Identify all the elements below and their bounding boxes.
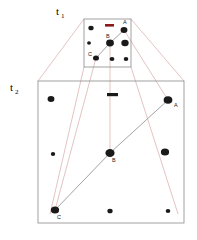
point-label-a-t2: A [174,102,178,108]
dot-t1-7 [124,57,129,61]
dot-t1-6 [110,57,115,61]
trajectory-t2-1 [55,153,110,210]
projection-line-0 [38,19,84,81]
projection-line-1 [131,19,184,81]
time-label-t2: t [10,81,13,93]
dot-t2-0 [48,96,55,102]
dot-t2-1 [164,96,173,104]
point-label-b-t1: B [106,33,110,39]
dot-t1-2 [87,41,91,44]
point-label-c-t1: C [88,51,92,57]
point-label-b-t2: B [112,157,116,163]
dot-t2-6 [107,209,112,214]
dot-t1-3 [106,40,114,47]
trajectory-t2-0 [110,100,168,153]
time-label-t1-subscript: 1 [61,12,65,20]
dash-marker-t2 [107,93,118,96]
projection-line-2 [50,67,84,214]
dot-t1-5 [93,55,99,60]
motion-correspondence-diagram: t 1 t 2 A B C A B C [0,0,197,240]
dot-t2-5 [51,206,59,213]
time-label-t1: t [56,5,59,17]
feature-dots-t1 [87,26,129,61]
dot-t1-1 [121,27,128,33]
projection-line-6 [131,67,178,214]
point-label-c-t2: C [57,214,61,220]
time-label-t2-subscript: 2 [15,88,19,96]
projection-lines [38,19,184,214]
dot-t2-3 [105,149,114,157]
dot-t2-2 [51,152,55,156]
dot-t2-7 [166,209,171,213]
point-label-a-t1: A [123,19,127,25]
dot-t1-4 [121,40,128,46]
accent-dash-marker-t1 [105,24,114,27]
dot-t2-4 [161,148,169,155]
dot-t1-0 [88,26,93,31]
